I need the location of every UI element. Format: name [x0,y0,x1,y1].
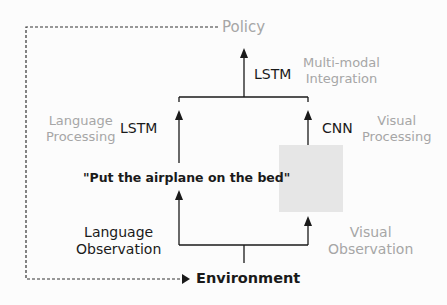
language-model-label: LSTM [120,120,157,137]
fusion-model-label: LSTM [254,66,291,83]
cnn-model-label: CNN [322,120,353,137]
visual-observation-label: Visual Observation [328,224,413,258]
visual-processing-label: Visual Processing [362,113,431,144]
feedback-arrowhead-icon [182,274,190,284]
diagram-connectors [0,0,447,305]
language-observation-label: Language Observation [76,224,161,258]
language-processing-label: Language Processing [46,113,115,144]
instruction-text: "Put the airplane on the bed" [83,170,290,185]
environment-label: Environment [196,270,300,287]
policy-label: Policy [222,18,265,36]
fusion-label: Multi-modal Integration [303,55,380,86]
